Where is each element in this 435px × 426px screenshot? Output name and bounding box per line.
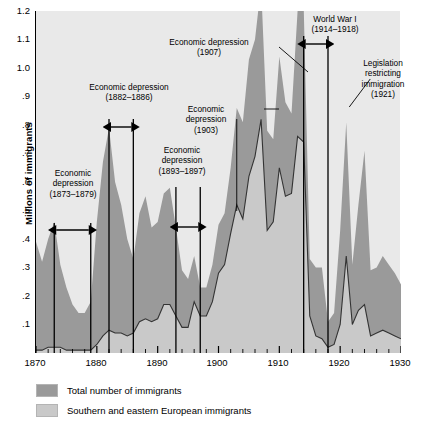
y-axis-title: Millions of immigrants [23, 94, 34, 254]
legend-item-southern-eastern: Southern and eastern European immigrants [36, 400, 416, 420]
annotation-wwi: World War I (1914–1918) [293, 14, 377, 35]
legend-swatch-total [36, 384, 58, 397]
x-tick-label: 1870 [12, 358, 58, 368]
x-tick-label: 1920 [316, 358, 362, 368]
y-tick-label: 1.0 [0, 63, 30, 73]
x-tick-label: 1900 [194, 358, 240, 368]
y-tick-label: .2 [0, 291, 30, 301]
y-tick-label: 1.1 [0, 34, 30, 44]
x-tick-label: 1880 [73, 358, 119, 368]
y-tick-label: .8 [0, 120, 30, 130]
legend-item-total: Total number of immigrants [36, 380, 416, 400]
x-tick-label: 1910 [255, 358, 301, 368]
annotation-dep-1903: Economic depression (1903) [173, 104, 239, 135]
x-tick-label: 1930 [377, 358, 423, 368]
legend-label-total: Total number of immigrants [67, 385, 182, 396]
y-tick-label: .5 [0, 205, 30, 215]
x-tick-label: 1890 [134, 358, 180, 368]
annotation-dep-1893: Economic depression (1893–1897) [146, 145, 218, 176]
chart-legend: Total number of immigrants Southern and … [36, 380, 416, 420]
annotation-dep-1907: Economic depression (1907) [146, 37, 272, 58]
annotation-dep-1882: Economic depression (1882–1886) [67, 82, 191, 103]
legend-swatch-southern-eastern [36, 404, 58, 417]
legend-label-southern-eastern: Southern and eastern European immigrants [67, 405, 251, 416]
y-tick-label: .9 [0, 91, 30, 101]
y-tick-label: .6 [0, 177, 30, 187]
y-tick-label: .4 [0, 234, 30, 244]
immigration-chart-figure: Millions of immigrants 1.2 1.1 1.0 .9 .8… [0, 0, 435, 426]
y-tick-label: .7 [0, 148, 30, 158]
y-tick-label: .3 [0, 262, 30, 272]
annotation-dep-1873: Economic depression (1873–1879) [36, 168, 110, 199]
y-tick-label: 1.2 [0, 6, 30, 16]
annotation-legislation-1921: Legislation restricting immigration (192… [349, 58, 417, 99]
y-tick-label: .1 [0, 319, 30, 329]
